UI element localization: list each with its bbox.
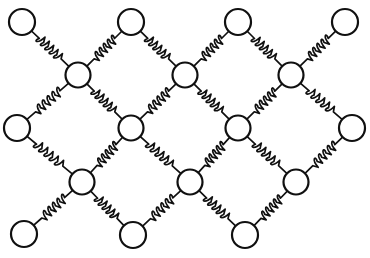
spring-s-18	[304, 136, 343, 174]
mass-node-n-a4	[332, 9, 358, 35]
spring-s-01	[31, 30, 70, 67]
spring-s-22	[198, 190, 236, 227]
spring-s-14	[90, 137, 124, 174]
spring-s-07	[26, 83, 69, 121]
spring-s-17	[246, 136, 287, 174]
spring-s-20	[90, 190, 125, 226]
mass-node-n-b1	[66, 63, 91, 88]
spring-s-03	[140, 30, 177, 67]
mass-node-n-a1	[9, 9, 35, 35]
spring-s-21	[142, 190, 182, 227]
mass-node-n-b2	[173, 63, 198, 88]
mass-node-n-e2	[120, 222, 146, 248]
mass-node-n-a3	[225, 9, 251, 35]
spring-s-11	[246, 83, 283, 120]
mass-node-n-e1	[11, 221, 37, 247]
spring-mass-lattice-figure	[0, 0, 370, 258]
mass-node-n-c4	[339, 115, 365, 141]
spring-s-08	[86, 83, 123, 120]
mass-node-n-d2	[178, 170, 203, 195]
spring-s-16	[198, 137, 231, 174]
mass-node-n-a2	[118, 9, 144, 35]
mass-node-n-c2	[119, 116, 144, 141]
mass-node-n-c1	[4, 115, 30, 141]
spring-s-19	[33, 190, 74, 226]
spring-s-02	[86, 30, 122, 66]
mass-node-n-b3	[279, 63, 304, 88]
mass-node-n-c3	[226, 116, 251, 141]
spring-s-06	[299, 30, 336, 67]
spring-s-09	[139, 83, 177, 120]
mass-node-n-d1	[70, 170, 95, 195]
mass-node-n-e3	[232, 222, 258, 248]
lattice-canvas	[0, 0, 370, 258]
masses-layer	[4, 9, 365, 248]
mass-node-n-d3	[284, 170, 309, 195]
spring-s-12	[300, 83, 343, 121]
spring-s-23	[253, 190, 288, 226]
spring-s-05	[246, 30, 282, 66]
spring-s-13	[26, 136, 73, 175]
springs-layer	[26, 30, 343, 227]
spring-s-04	[193, 30, 229, 66]
spring-s-10	[193, 83, 230, 120]
spring-s-15	[139, 136, 181, 174]
